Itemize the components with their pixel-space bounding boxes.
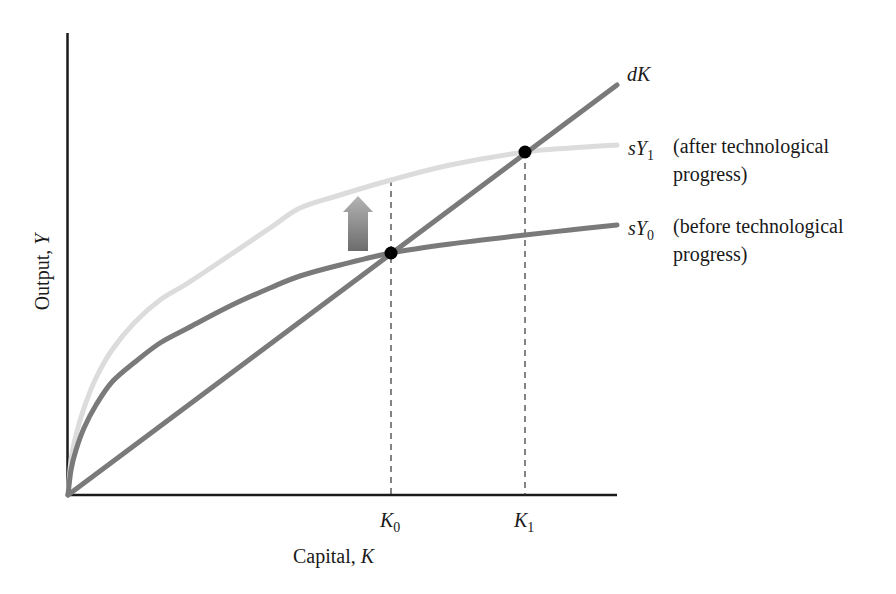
x-axis-label: Capital, K [293, 546, 374, 566]
equilibrium-k0-dot [385, 247, 398, 260]
y-axis-label-var: Y [31, 234, 53, 245]
k1-text: K [514, 509, 527, 531]
x-tick-k0: K0 [380, 510, 400, 530]
sy0-desc-line1: (before technological [673, 212, 843, 240]
dk-label: dK [627, 64, 650, 84]
y-axis-label: Output, Y [31, 234, 54, 311]
sy0-description: (before technological progress) [673, 212, 843, 268]
sy1-description: (after technological progress) [673, 132, 829, 188]
dk-line [68, 85, 617, 495]
k0-subscript: 0 [393, 520, 400, 535]
k1-subscript: 1 [527, 520, 534, 535]
sy0-curve [68, 225, 617, 495]
k0-text: K [380, 509, 393, 531]
chart-canvas [0, 0, 896, 594]
sy0-label-text: sY [628, 217, 647, 239]
sy1-label: sY1 [628, 138, 654, 158]
x-axis-label-var: K [361, 545, 374, 567]
dk-label-text: dK [627, 63, 650, 85]
equilibrium-k1-dot [519, 146, 532, 159]
sy0-desc-line2: progress) [673, 240, 843, 268]
sy1-curve [68, 145, 617, 495]
sy1-desc-line1: (after technological [673, 132, 829, 160]
x-tick-k1: K1 [514, 510, 534, 530]
x-axis-label-text: Capital, [293, 545, 361, 567]
y-axis-label-text: Output, [31, 245, 53, 311]
sy0-label: sY0 [628, 218, 654, 238]
sy0-subscript: 0 [647, 228, 654, 243]
sy1-label-text: sY [628, 137, 647, 159]
sy1-subscript: 1 [647, 148, 654, 163]
sy1-desc-line2: progress) [673, 160, 829, 188]
shift-up-arrow-icon [343, 196, 373, 251]
